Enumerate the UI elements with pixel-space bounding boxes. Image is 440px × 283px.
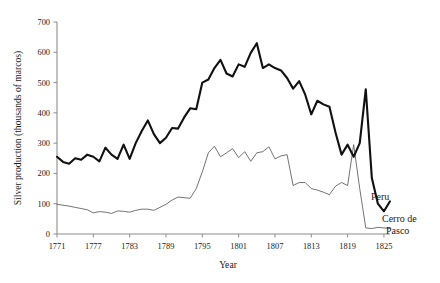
x-axis-title: Year [219, 259, 237, 270]
x-axis-tick-label: 1807 [267, 242, 284, 251]
x-axis-tick-label: 1795 [194, 242, 211, 251]
y-axis-tick-label: 400 [37, 109, 50, 118]
x-axis-tick-label: 1771 [49, 242, 66, 251]
chart-canvas: 0100200300400500600700 17711777178317891… [0, 0, 440, 283]
series-label-cerro-de-pasco-line1: Cerro de [382, 213, 417, 224]
x-axis-tick-label-group: 1771177717831789179518011807181318191825 [49, 242, 393, 251]
y-axis-title: Silver production (thousands of marcos) [12, 51, 24, 206]
series-line-peru [57, 43, 390, 211]
x-axis-tick-label: 1801 [230, 242, 247, 251]
y-axis-tick-label: 200 [37, 169, 50, 178]
y-axis-tick-label: 300 [37, 139, 50, 148]
y-axis-tick-label: 0 [46, 230, 50, 239]
silver-production-chart: 0100200300400500600700 17711777178317891… [0, 0, 440, 283]
series-label-cerro-de-pasco-line2: Pasco [386, 225, 409, 236]
x-axis-tick-label: 1783 [121, 242, 138, 251]
y-axis-tick-label-group: 0100200300400500600700 [37, 18, 50, 239]
series-label-peru: Peru [371, 191, 389, 202]
y-axis-tick-label: 100 [37, 200, 50, 209]
series-line-cerro-de-pasco [57, 145, 390, 229]
x-axis-tick-label: 1825 [376, 242, 393, 251]
y-axis-tick-label: 500 [37, 79, 50, 88]
x-axis-tick-label: 1777 [85, 242, 102, 251]
y-axis-tick-label: 600 [37, 48, 50, 57]
x-axis-tick-label: 1813 [303, 242, 320, 251]
x-axis-tick-label: 1819 [339, 242, 356, 251]
y-axis-tick-label: 700 [37, 18, 50, 27]
x-axis-tick-label: 1789 [158, 242, 175, 251]
